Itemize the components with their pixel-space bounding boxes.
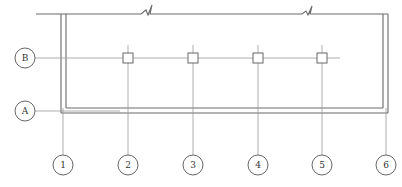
column-B2 [123, 53, 133, 63]
axis-bubble-3: 3 [183, 155, 203, 175]
axis-bubble-1: 1 [53, 155, 73, 175]
axis-bubble-label: 3 [190, 160, 196, 170]
axis-bubble-label: 1 [60, 160, 66, 170]
right-wall [383, 14, 388, 113]
axis-bubble-5: 5 [312, 155, 332, 175]
bottom-wall [61, 108, 388, 113]
axis-bubble-label: 2 [125, 160, 131, 170]
left-wall [61, 14, 66, 113]
grid-plan-drawing: 123456BA [0, 0, 402, 187]
axis-bubble-label: 5 [319, 160, 325, 170]
axis-bubble-B: B [15, 48, 35, 68]
axis-bubble-label: 6 [383, 160, 389, 170]
axis-bubble-6: 6 [376, 155, 396, 175]
axis-bubble-label: B [22, 53, 29, 63]
axis-bubble-label: A [21, 106, 29, 116]
axis-bubble-2: 2 [118, 155, 138, 175]
axis-bubble-4: 4 [248, 155, 268, 175]
column-B3 [188, 53, 198, 63]
axis-bubble-label: 4 [255, 160, 261, 170]
top-break-line [36, 5, 388, 15]
column-B5 [317, 53, 327, 63]
column-B4 [253, 53, 263, 63]
axis-bubble-A: A [15, 101, 35, 121]
